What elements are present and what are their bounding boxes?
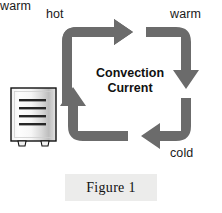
- center-title-line2: Current: [87, 81, 173, 96]
- convection-figure: hot warm cold warm Convection Current Fi…: [0, 0, 222, 213]
- label-hot: hot: [46, 8, 64, 21]
- radiator-icon: [11, 88, 56, 146]
- label-cold: cold: [170, 147, 193, 160]
- arrow-bottom-right: [141, 98, 191, 149]
- label-warm-bottom: warm: [0, 0, 31, 13]
- center-title-line1: Convection: [87, 66, 173, 81]
- label-warm-top: warm: [170, 8, 201, 21]
- figure-caption-text: Figure 1: [86, 180, 135, 196]
- center-title: Convection Current: [87, 66, 173, 95]
- arrow-bottom-left: [60, 87, 128, 141]
- radiator-feet: [18, 141, 49, 146]
- figure-caption-box: Figure 1: [65, 174, 157, 201]
